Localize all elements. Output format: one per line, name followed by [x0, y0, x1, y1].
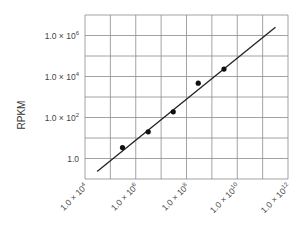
- y-tick-label: 1.0: [67, 154, 79, 164]
- x-tick-label: 1.0 × 108: [159, 181, 191, 213]
- x-axis-ticks: 1.0 × 1041.0 × 1061.0 × 1081.0 × 10101.0…: [58, 181, 293, 216]
- y-axis-label: RPKM: [16, 101, 27, 130]
- scatter-chart: 1.01.0 × 1021.0 × 1041.0 × 106 1.0 × 104…: [0, 0, 304, 232]
- data-point: [196, 81, 201, 86]
- grid: [85, 15, 288, 179]
- y-tick-label: 1.0 × 102: [45, 112, 80, 123]
- data-point: [171, 109, 176, 114]
- y-axis-ticks: 1.01.0 × 1021.0 × 1041.0 × 106: [45, 30, 80, 164]
- y-tick-label: 1.0 × 106: [45, 30, 80, 41]
- x-tick-label: 1.0 × 104: [58, 181, 90, 213]
- x-tick-label: 1.0 × 1010: [208, 181, 243, 216]
- x-tick-label: 1.0 × 1012: [258, 181, 293, 216]
- data-point: [120, 145, 125, 150]
- data-point: [146, 129, 151, 134]
- y-tick-label: 1.0 × 104: [45, 71, 80, 82]
- x-tick-label: 1.0 × 106: [108, 181, 140, 213]
- data-point: [221, 66, 226, 71]
